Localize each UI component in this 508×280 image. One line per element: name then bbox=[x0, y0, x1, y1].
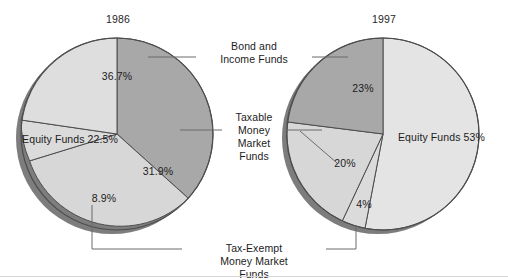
pie-1986-label-bond-income: 36.7% bbox=[82, 70, 152, 83]
pie-1997-label-equity: Equity Funds 53% bbox=[398, 131, 482, 144]
pie-chart-figure: 1986 1997 36.7% Equity Funds 22.5% 31.9%… bbox=[0, 0, 508, 280]
callout-taxable-money-market-funds: Taxable Money Market Funds bbox=[222, 111, 286, 163]
pie-1986-label-taxexempt-mmf: 8.9% bbox=[74, 192, 134, 205]
pie-1997-label-taxable-mmf: 20% bbox=[322, 157, 368, 170]
callout-bond-line-1: Bond and bbox=[196, 40, 312, 53]
pie-1997-label-taxexempt-mmf: 4% bbox=[344, 198, 384, 211]
callout-taxable-line-2: Money bbox=[222, 124, 286, 137]
pie-1986-label-equity: Equity Funds 22.5% bbox=[22, 133, 118, 146]
pie-1986-label-equity-name: Equity Funds bbox=[22, 133, 84, 145]
callout-taxable-line-3: Market bbox=[222, 137, 286, 150]
pie-1997-label-equity-name: Equity Funds bbox=[398, 131, 460, 143]
bottom-divider bbox=[0, 276, 508, 277]
callout-tax-exempt-money-market-funds: Tax-Exempt Money Market Funds bbox=[182, 242, 326, 280]
pie-1997-label-equity-value: 53% bbox=[464, 131, 485, 143]
pie-1986-slice-equity[interactable] bbox=[21, 38, 117, 134]
callout-taxexempt-line-2: Money Market bbox=[182, 255, 326, 268]
chart-title-1986: 1986 bbox=[78, 13, 158, 25]
callout-taxable-line-4: Funds bbox=[222, 150, 286, 163]
callout-taxable-line-1: Taxable bbox=[222, 111, 286, 124]
callout-bond-line-2: Income Funds bbox=[196, 53, 312, 66]
chart-title-1997: 1997 bbox=[344, 13, 424, 25]
callout-taxexempt-line-1: Tax-Exempt bbox=[182, 242, 326, 255]
pie-1997-label-bond-income: 23% bbox=[338, 82, 388, 95]
pie-1986-label-taxable-mmf: 31.9% bbox=[128, 165, 188, 178]
pie-1986-label-equity-value: 22.5% bbox=[88, 133, 118, 145]
callout-bond-income-funds: Bond and Income Funds bbox=[196, 40, 312, 66]
callout-taxexempt-line-3: Funds bbox=[182, 268, 326, 280]
